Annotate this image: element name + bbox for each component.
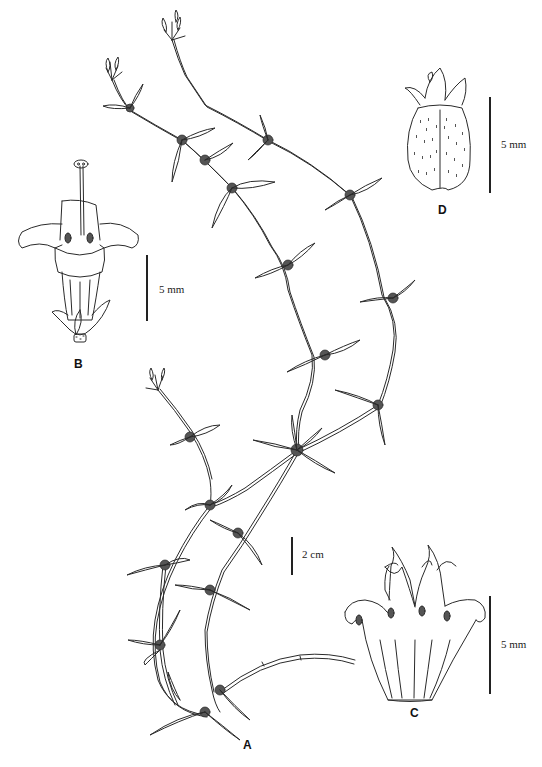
botanical-plate: A B C D 2 cm 5 mm 5 mm 5 mm [0,0,542,767]
scale-label-c: 5 mm [501,638,526,650]
line-art [0,0,542,767]
scale-label-d: 5 mm [501,138,526,150]
scale-bar-c [489,596,491,694]
panel-c-drawing [345,545,485,702]
scale-label-a: 2 cm [302,548,324,560]
scale-label-b: 5 mm [159,283,184,295]
panel-label-a: A [243,738,252,752]
scale-bar-b [146,255,148,321]
panel-d-drawing [405,68,470,190]
scale-bar-d [489,97,491,193]
panel-a-drawing [103,10,415,740]
panel-label-b: B [74,357,83,371]
scale-bar-a [291,537,293,575]
panel-label-c: C [410,706,419,720]
panel-b-drawing [19,160,139,342]
panel-label-d: D [438,203,447,217]
